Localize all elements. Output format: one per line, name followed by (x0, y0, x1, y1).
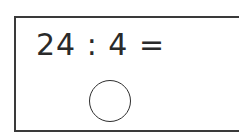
division-equation: 24 : 4 = (36, 27, 165, 63)
answer-circle-input[interactable] (89, 80, 131, 122)
exercise-card: 24 : 4 = (14, 16, 239, 132)
